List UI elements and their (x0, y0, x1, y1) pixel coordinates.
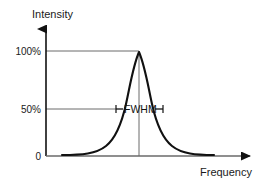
fwhm-label: FWHM (124, 103, 157, 115)
y-axis-title: Intensity (32, 8, 73, 20)
fwhm-spectral-diagram: FWHM 100% 50% 0 Intensity Frequency (0, 0, 268, 184)
y-tick-label-0: 0 (35, 151, 41, 162)
y-tick-label-100: 100% (15, 46, 41, 57)
plot-canvas: FWHM 100% 50% 0 Intensity Frequency (0, 0, 268, 184)
y-tick-label-50: 50% (21, 104, 41, 115)
x-axis-title: Frequency (200, 166, 252, 178)
